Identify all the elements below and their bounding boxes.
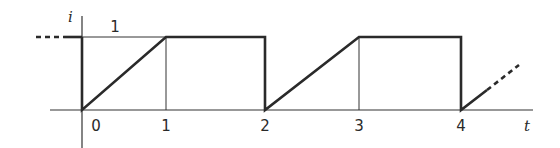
x-axis-label: t: [524, 117, 531, 135]
x-tick-4: 4: [456, 117, 466, 135]
level-label: 1: [110, 18, 120, 36]
waveform: [82, 37, 487, 110]
x-tick-0: 0: [91, 117, 101, 135]
y-axis-label: i: [68, 8, 73, 26]
dashed-continuation-right: [487, 65, 519, 90]
x-tick-3: 3: [354, 117, 364, 135]
x-tick-1: 1: [161, 117, 171, 135]
x-tick-2: 2: [260, 117, 270, 135]
waveform-diagram: i 1 0 1 2 3 4 t: [0, 0, 560, 148]
